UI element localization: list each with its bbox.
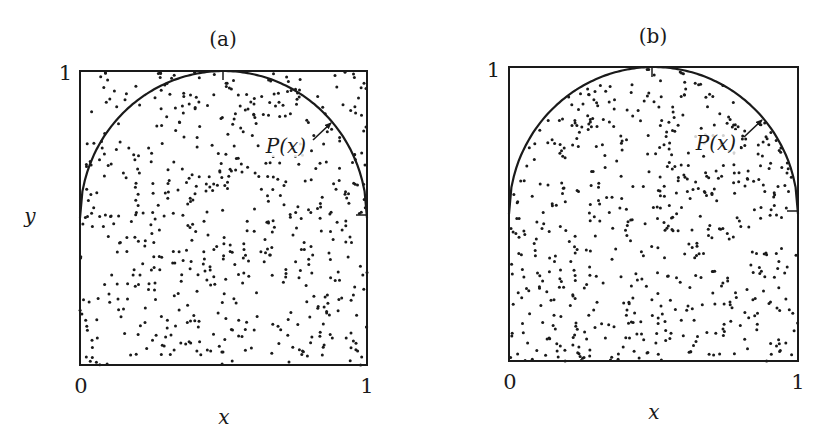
- panel-a-ytick-1: 1: [59, 61, 72, 85]
- panel-b-xtick-0: 0: [503, 370, 516, 394]
- panel-b-x-label: x: [648, 400, 659, 424]
- panel-b-ytick-1: 1: [487, 58, 500, 82]
- panel-b-arrow: [744, 120, 762, 137]
- panel-a-title: (a): [209, 27, 237, 51]
- panel-b-curve-label: P(x): [695, 131, 736, 155]
- panel-a-xtick-1: 1: [360, 374, 373, 398]
- panel-b: (b) 1 0 1 x P(x): [487, 24, 805, 424]
- y-axis-label: y: [23, 204, 36, 228]
- panel-b-xtick-1: 1: [791, 370, 804, 394]
- scatter-points-b: [509, 68, 799, 363]
- panel-a-frame: [80, 71, 367, 365]
- panel-a: (a) 1 0 1 x y P(x): [23, 27, 373, 429]
- panel-a-curve-label: P(x): [265, 134, 306, 158]
- figure: (a) 1 0 1 x y P(x) (b) 1 0 1 x P(x): [0, 0, 827, 442]
- panel-a-xtick-0: 0: [74, 374, 87, 398]
- panel-b-title: (b): [639, 24, 667, 48]
- panel-a-x-label: x: [218, 405, 229, 429]
